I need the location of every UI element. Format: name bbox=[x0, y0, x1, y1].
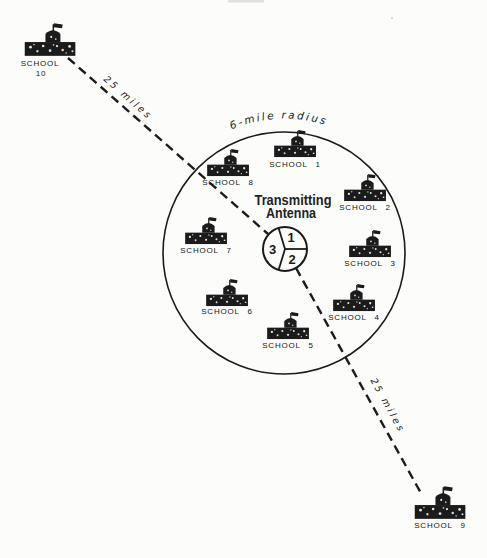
school-3: SCHOOL 3 bbox=[344, 230, 396, 267]
school-7-label: SCHOOL 7 bbox=[180, 246, 232, 255]
antenna-sector-2: 2 bbox=[288, 252, 295, 267]
scan-speck bbox=[391, 17, 393, 19]
dashed-link-school10 bbox=[68, 58, 268, 234]
school-4-label: SCHOOL 4 bbox=[328, 313, 380, 322]
school-building-icon bbox=[25, 23, 76, 56]
school-building-icon bbox=[207, 149, 249, 176]
school-5-label: SCHOOL 5 bbox=[262, 341, 314, 350]
school-8-label: SCHOOL 8 bbox=[202, 178, 254, 187]
school-5: SCHOOL 5 bbox=[262, 312, 314, 349]
school-6: SCHOOL 6 bbox=[201, 279, 253, 316]
school-building-icon bbox=[333, 284, 375, 311]
antenna-sector-3: 3 bbox=[269, 242, 276, 257]
school-building-icon bbox=[185, 217, 227, 244]
antenna-sector-1: 1 bbox=[287, 230, 294, 245]
school-10: SCHOOL 10 bbox=[21, 23, 76, 77]
school-2: SCHOOL 2 bbox=[339, 174, 391, 211]
radius-label: 6-mile radius bbox=[228, 109, 330, 132]
school-6-label: SCHOOL 6 bbox=[201, 307, 253, 316]
antenna-title-line2: Antenna bbox=[266, 204, 317, 221]
school-3-label: SCHOOL 3 bbox=[344, 259, 396, 268]
school-building-icon bbox=[415, 486, 466, 519]
school-10-label-line2: 10 bbox=[36, 69, 47, 78]
school-7: SCHOOL 7 bbox=[180, 217, 232, 254]
school-building-icon bbox=[349, 230, 391, 257]
radius-label-text: 6-mile radius bbox=[228, 109, 330, 132]
distance-label-top: 25 miles bbox=[102, 73, 155, 121]
school-4: SCHOOL 4 bbox=[328, 284, 380, 322]
transmitting-antenna-symbol: 1 2 3 bbox=[263, 227, 307, 271]
broadcast-coverage-diagram: 6-mile radius 25 miles 25 miles Transmit… bbox=[0, 0, 487, 558]
school-2-label: SCHOOL 2 bbox=[339, 203, 391, 212]
school-9: SCHOOL 9 bbox=[414, 486, 466, 529]
school-1-label: SCHOOL 1 bbox=[269, 160, 321, 169]
distance-label-bottom: 25 miles bbox=[368, 376, 407, 435]
cropped-page-number-fragment bbox=[228, 0, 264, 3]
school-9-label: SCHOOL 9 bbox=[414, 521, 466, 530]
diagram-page: 6-mile radius 25 miles 25 miles Transmit… bbox=[0, 0, 487, 558]
school-10-label-line1: SCHOOL bbox=[21, 59, 60, 68]
school-building-icon bbox=[206, 279, 248, 306]
school-building-icon bbox=[267, 312, 309, 339]
school-8: SCHOOL 8 bbox=[202, 149, 254, 186]
